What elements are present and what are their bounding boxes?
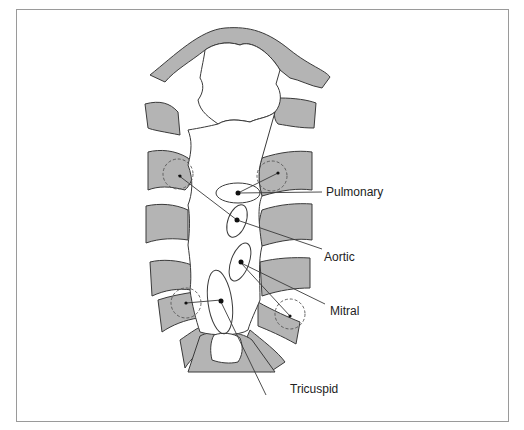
rib-left-3 bbox=[146, 204, 188, 243]
pulmonary-label: Pulmonary bbox=[326, 185, 383, 199]
rib-right-4 bbox=[260, 258, 310, 296]
tricuspid-label: Tricuspid bbox=[290, 382, 338, 396]
rib-right-3 bbox=[259, 204, 312, 246]
rib-left-4 bbox=[150, 260, 192, 296]
mitral-label: Mitral bbox=[330, 304, 359, 318]
aortic-dot bbox=[235, 218, 240, 223]
aortic-label: Aortic bbox=[324, 250, 355, 264]
rib-left-2 bbox=[148, 150, 193, 190]
rib-left-1 bbox=[145, 102, 180, 135]
xiphoid bbox=[211, 333, 242, 363]
rib-right-5 bbox=[258, 302, 300, 344]
tricuspid-dot bbox=[219, 299, 224, 304]
thorax-diagram bbox=[0, 0, 524, 430]
rib-right-1 bbox=[274, 98, 316, 128]
mitral-dot bbox=[239, 260, 244, 265]
rib-right-2 bbox=[259, 151, 312, 196]
pulmonary-dot bbox=[236, 191, 241, 196]
manubrium bbox=[198, 43, 280, 124]
